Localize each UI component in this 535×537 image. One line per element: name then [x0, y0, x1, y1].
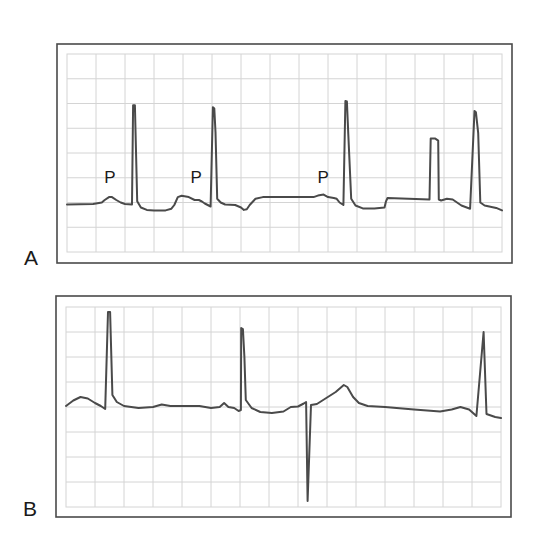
- panel-a-label: A: [24, 246, 38, 269]
- panel-a-p-wave-label: P: [317, 168, 328, 187]
- panel-a-p-wave-label: P: [190, 168, 201, 187]
- panel-b: B: [23, 296, 511, 520]
- panel-b-label: B: [23, 497, 37, 520]
- panel-a-p-wave-label: P: [104, 168, 115, 187]
- panel-a: PPP A: [24, 44, 512, 269]
- ecg-figure: PPP A B: [0, 0, 535, 537]
